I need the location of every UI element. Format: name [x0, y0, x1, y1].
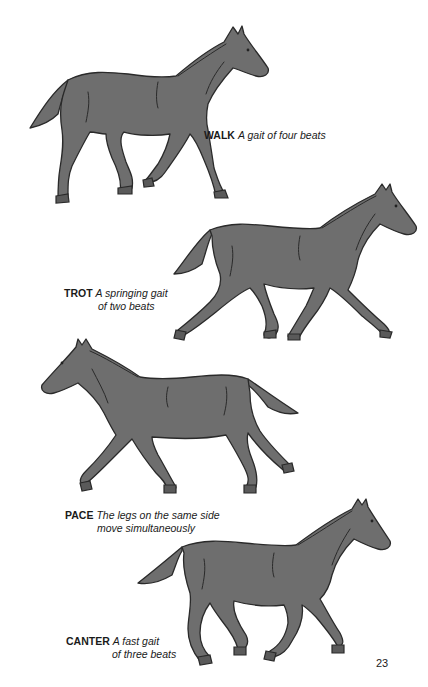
page-number: 23: [376, 657, 388, 669]
gait-description-canter: A fast gait: [113, 635, 159, 647]
gait-description-canter-line2: of three beats: [66, 648, 176, 661]
gait-description-trot-line2: of two beats: [64, 300, 168, 313]
gait-name-canter: CANTER: [66, 635, 110, 647]
pace-horse-illustration: [36, 335, 301, 500]
gait-name-trot: TROT: [64, 287, 93, 299]
gait-description-walk: A gait of four beats: [238, 129, 326, 141]
gait-description-trot: A springing gait: [96, 287, 168, 299]
trot-caption: TROTA springing gait of two beats: [64, 287, 168, 313]
gait-name-pace: PACE: [65, 509, 93, 521]
walk-caption: WALKA gait of four beats: [204, 129, 326, 142]
trot-horse-illustration: [170, 180, 420, 345]
gait-name-walk: WALK: [204, 129, 235, 141]
canter-caption: CANTERA fast gait of three beats: [66, 635, 176, 661]
